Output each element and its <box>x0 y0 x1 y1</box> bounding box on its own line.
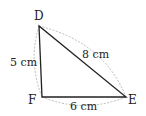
triangle-diagram: D F E 5 cm 8 cm 6 cm <box>0 0 146 116</box>
triangle-def <box>39 26 126 97</box>
vertex-f-label: F <box>28 93 36 107</box>
side-df-length: 5 cm <box>10 56 38 69</box>
triangle-svg: D F E 5 cm 8 cm 6 cm <box>0 0 146 116</box>
vertex-d-label: D <box>34 9 44 23</box>
side-de-length: 8 cm <box>82 48 110 61</box>
side-fe-length: 6 cm <box>70 100 98 113</box>
vertex-e-label: E <box>128 93 137 107</box>
